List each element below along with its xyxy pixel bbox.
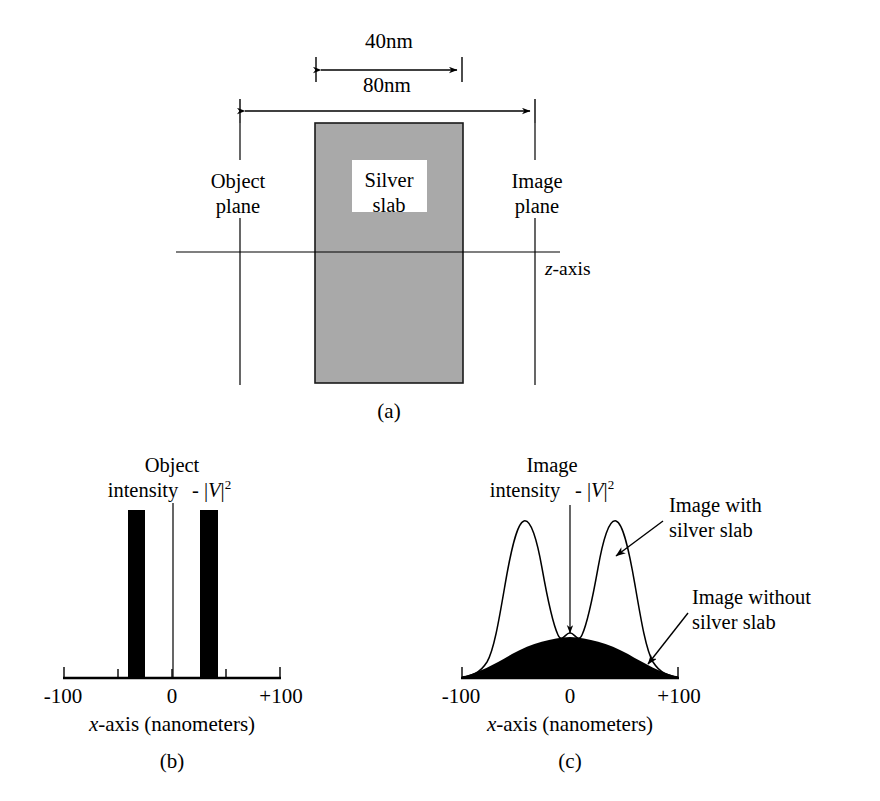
panel-c-ticklabel-0: 0: [565, 684, 576, 708]
panel-c-title-line2: intensity: [490, 479, 561, 502]
panel-c-annotation-without-slab-line2: silver slab: [692, 611, 776, 633]
panel-c-annotation-without-slab-arrow: [648, 613, 688, 664]
panel-c-quantity-prefix: - |: [575, 479, 591, 502]
figure-canvas: 40nm 80nm Object plane Image plane Silve…: [0, 0, 880, 801]
panel-b-xaxis-label-rest: -axis (nanometers): [98, 712, 255, 736]
image-plane-label-line2: plane: [515, 195, 559, 218]
panel-c-title-line1: Image: [526, 454, 577, 477]
panel-b-title-quantity: - |V|2: [192, 477, 231, 502]
panel-b-quantity-exponent: 2: [225, 477, 232, 492]
silver-slab-label-line1: Silver: [365, 169, 414, 191]
panel-b-caption: (b): [160, 749, 185, 773]
panel-c-xaxis-label: x-axis (nanometers): [486, 712, 653, 736]
panel-c-xaxis-label-rest: -axis (nanometers): [496, 712, 653, 736]
panel-b-quantity-prefix: - |: [192, 479, 208, 502]
panel-b-ticklabel-0: 0: [167, 684, 178, 708]
panel-b-chart: Object intensity - |V|2 -100 0 +100 x-ax…: [44, 454, 303, 773]
figure-root: 40nm 80nm Object plane Image plane Silve…: [0, 0, 880, 801]
panel-c-annotation-without-slab-line1: Image without: [692, 586, 811, 609]
dimension-80nm-label: 80nm: [363, 73, 411, 97]
panel-c-ticklabel-100: +100: [657, 684, 700, 708]
object-plane-label-line2: plane: [216, 195, 260, 218]
panel-b-xaxis-label: x-axis (nanometers): [88, 712, 255, 736]
panel-c-ticklabel--100: -100: [442, 684, 481, 708]
panel-c-quantity-exponent: 2: [608, 477, 615, 492]
panel-b-title-line1: Object: [145, 454, 200, 477]
panel-b-title-line2: intensity: [108, 479, 179, 502]
panel-a-diagram: 40nm 80nm Object plane Image plane Silve…: [176, 29, 591, 423]
dimension-40nm-label: 40nm: [365, 29, 413, 53]
panel-a-caption: (a): [377, 399, 400, 423]
panel-c-annotation-with-slab-line1: Image with: [669, 494, 762, 517]
panel-c-caption: (c): [558, 749, 581, 773]
panel-b-bar-right: [200, 510, 218, 677]
panel-c-title-quantity: - |V|2: [575, 477, 614, 502]
silver-slab-label-line2: slab: [372, 194, 405, 216]
panel-c-chart: Image intensity - |V|2 Image with silver…: [442, 454, 812, 773]
panel-b-ticklabel--100: -100: [44, 684, 83, 708]
dimension-80nm: [240, 99, 535, 123]
image-plane-label-line1: Image: [511, 170, 562, 193]
panel-c-annotation-with-slab-arrow: [616, 521, 663, 556]
panel-b-ticklabel-100: +100: [259, 684, 302, 708]
z-axis-label-rest: -axis: [553, 258, 591, 279]
object-plane-label-line1: Object: [211, 170, 266, 193]
panel-b-bar-left: [128, 510, 145, 677]
z-axis-label: z-axis: [544, 258, 591, 279]
panel-c-annotation-with-slab-line2: silver slab: [669, 519, 753, 541]
